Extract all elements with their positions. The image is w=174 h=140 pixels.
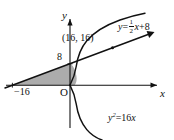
line-eq-fraction: 12 — [129, 19, 135, 35]
x-intercept-tick-label: −16 — [14, 87, 30, 97]
tangency-point-marker — [111, 46, 114, 49]
parabola-lower-branch — [70, 85, 102, 140]
tangency-point-label: (16, 16) — [62, 33, 94, 43]
line-eq-fraction-denominator: 2 — [129, 27, 135, 35]
origin-label: O — [60, 87, 68, 98]
line-eq-equals: = — [122, 21, 128, 32]
line-eq-fraction-numerator: 1 — [129, 19, 135, 27]
y-intercept-tick-label: 8 — [57, 52, 62, 62]
line-eq-constant: 8 — [145, 21, 150, 32]
parabola-equation-label: y2=16x — [108, 112, 136, 123]
parabola-eq-coefficient: 16 — [121, 112, 131, 123]
line-equation-label: y=12x+8 — [118, 19, 150, 35]
parabola-eq-variable: x — [131, 112, 135, 123]
y-axis-label: y — [62, 10, 67, 21]
math-figure: y x O 8 −16 (16, 16) y=12x+8 y2=16x — [0, 0, 174, 140]
x-axis-label: x — [160, 88, 165, 99]
